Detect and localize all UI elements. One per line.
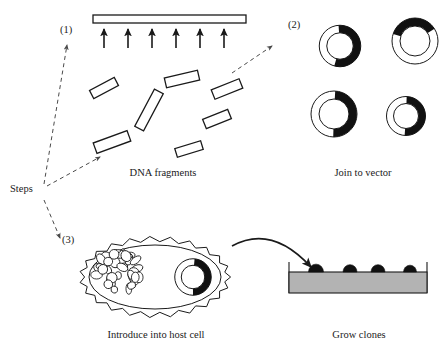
- source-dna-bar: [93, 15, 246, 23]
- dna-fragment-3: [211, 79, 243, 100]
- step-number-2: (2): [288, 19, 301, 31]
- restriction-cleavage-arrows: [104, 29, 224, 48]
- panel-join-to-vector: [311, 18, 438, 137]
- caption-grow-clones: Grow clones: [332, 329, 385, 340]
- plasmid-insert-arc: [397, 22, 431, 35]
- plasmid-inner-circle: [394, 104, 419, 129]
- dna-fragment-group: [90, 70, 243, 157]
- plasmid-top-left: [319, 25, 361, 67]
- panel-dna-fragments: [90, 15, 246, 157]
- dna-fragment-4: [135, 89, 164, 131]
- plasmid-inner-circle: [400, 26, 430, 56]
- plasmid-insert-arc: [333, 95, 353, 133]
- diagram-canvas: Steps (1) (2) (3) DNA fragments Join to …: [0, 0, 446, 355]
- dna-fragment-2: [164, 70, 199, 87]
- dna-fragment-1: [90, 77, 119, 98]
- colony-2: [343, 265, 357, 272]
- step-number-1: (1): [60, 24, 73, 36]
- arrow-steps-to-2: [47, 157, 100, 186]
- arrow-fragments-to-vectors: [232, 46, 272, 73]
- caption-dna-fragments: DNA fragments: [130, 167, 197, 178]
- colony-3: [371, 265, 385, 272]
- plasmid-bottom-right: [387, 97, 426, 136]
- arrow-cell-to-plate: [232, 239, 311, 267]
- plasmid-inner-circle: [319, 99, 349, 129]
- plasmid-inner-circle: [327, 33, 354, 60]
- bacterial-colony-group: [309, 264, 417, 272]
- dna-fragment-7: [175, 141, 203, 158]
- arrow-steps-to-1: [44, 45, 67, 184]
- steps-label: Steps: [10, 183, 33, 194]
- caption-introduce-host-cell: Introduce into host cell: [107, 329, 204, 340]
- dna-fragment-6: [93, 131, 131, 154]
- colony-1: [309, 264, 324, 272]
- panel-host-cell: [80, 236, 231, 317]
- plasmid-bottom-left: [311, 91, 357, 137]
- caption-join-to-vector: Join to vector: [334, 167, 392, 178]
- step-number-3: (3): [62, 234, 75, 246]
- arrow-steps-to-3: [44, 200, 60, 238]
- agar-surface: [289, 272, 427, 293]
- colony-4: [404, 265, 417, 272]
- cloning-workflow-diagram: Steps (1) (2) (3) DNA fragments Join to …: [0, 0, 446, 355]
- plasmid-insert-arc: [405, 100, 422, 132]
- chromosome-blob: [131, 272, 139, 283]
- plasmid-top-right: [392, 18, 438, 64]
- plasmid-insert-arc: [335, 29, 357, 63]
- dna-fragment-5: [203, 109, 232, 128]
